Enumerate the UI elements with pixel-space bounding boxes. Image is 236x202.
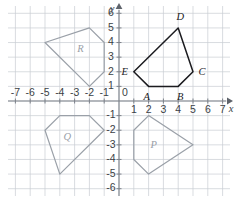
axis-tick-labels: -7-6-5-4-3-2-101234567-6-5-4-3-2-1123456 (11, 6, 226, 193)
y-tick-label: 2 (108, 65, 114, 77)
x-tick-label: 5 (190, 103, 196, 115)
y-axis-arrowhead (116, 3, 123, 9)
vertex-label-c: C (198, 66, 206, 77)
y-tick-label: 3 (108, 50, 114, 62)
x-tick-label: 6 (205, 103, 211, 115)
coordinate-plane-figure: xy -7-6-5-4-3-2-101234567-6-5-4-3-2-1123… (0, 0, 236, 202)
x-tick-label: -7 (11, 86, 20, 98)
x-tick-label: -6 (26, 86, 35, 98)
vertex-label-d: D (175, 11, 184, 22)
x-tick-label: 7 (220, 103, 226, 115)
x-tick-label: 4 (175, 103, 181, 115)
vertex-label-e: E (121, 66, 129, 77)
y-tick-label: -2 (106, 123, 115, 135)
x-tick-label: 3 (160, 103, 166, 115)
y-tick-label: -1 (106, 108, 115, 120)
y-tick-label: 5 (108, 21, 114, 33)
x-tick-label: 2 (146, 103, 152, 115)
y-tick-label: 1 (108, 79, 114, 91)
x-tick-label: -4 (55, 86, 64, 98)
y-tick-label: -5 (106, 167, 115, 179)
y-tick-label: -6 (106, 181, 115, 193)
x-tick-label: -2 (85, 86, 94, 98)
x-tick-label: -5 (40, 86, 49, 98)
coordinate-plane-svg: xy -7-6-5-4-3-2-101234567-6-5-4-3-2-1123… (0, 0, 236, 202)
x-axis-label: x (228, 103, 234, 114)
y-tick-label: -3 (106, 138, 115, 150)
y-tick-label: -4 (106, 152, 115, 164)
y-tick-label: 6 (108, 6, 114, 18)
x-tick-label: 1 (131, 103, 137, 115)
tick-label-origin: 0 (122, 86, 128, 98)
axes: xy (8, 3, 234, 196)
x-tick-label: -3 (70, 86, 79, 98)
shape-label-p: P (150, 139, 158, 150)
shape-label-q: Q (63, 131, 71, 142)
shape-label-r: R (76, 43, 84, 54)
vertex-label-a: A (142, 91, 150, 102)
vertex-label-b: B (177, 91, 184, 102)
y-tick-label: 4 (108, 35, 114, 47)
